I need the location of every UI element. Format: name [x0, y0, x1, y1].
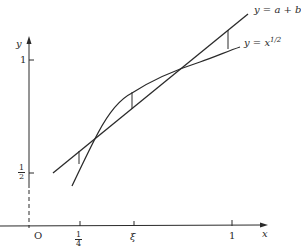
x-axis-arrow-icon — [260, 223, 268, 228]
linear-approximation-line — [53, 14, 248, 173]
sqrt-equation-label: y = x1/2 — [244, 37, 281, 48]
line-equation-label: y = a + bx — [254, 5, 301, 15]
y-axis-label: y — [16, 39, 22, 49]
x-axis-label: x — [262, 229, 268, 239]
x-tick-label-quarter: 1 4 — [75, 231, 82, 246]
y-tick-label-1: 1 — [20, 55, 26, 65]
sqrt-curve — [72, 47, 240, 186]
y-tick-label-half: 1 2 — [18, 164, 25, 181]
x-tick-label-1: 1 — [229, 231, 235, 241]
x-tick-label-xi: ξ — [130, 232, 136, 242]
y-axis-arrow-icon — [27, 36, 32, 44]
x-axis — [0, 225, 262, 226]
origin-label: O — [34, 231, 42, 241]
